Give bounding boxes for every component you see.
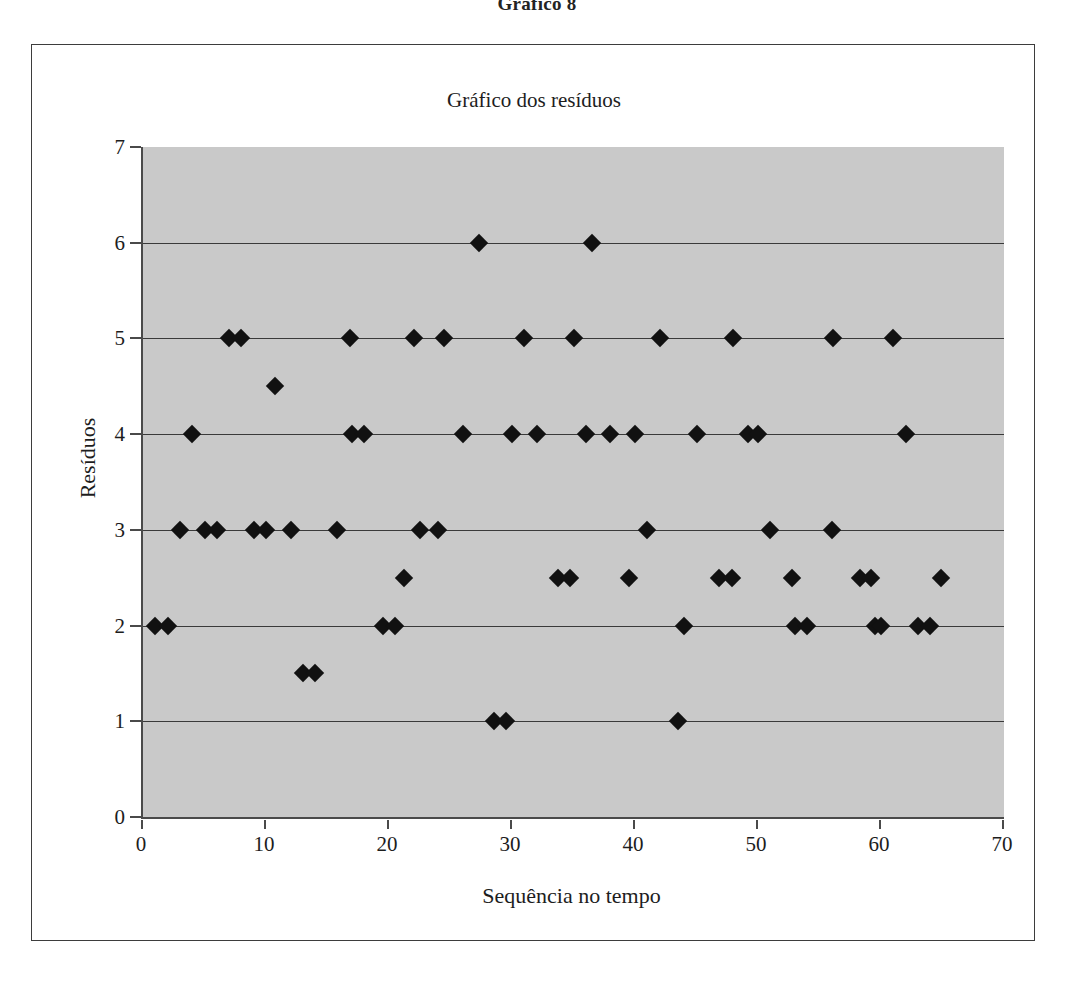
gridline-y-6 xyxy=(143,243,1004,244)
y-tick-label-6: 6 xyxy=(81,232,125,253)
scatter-point xyxy=(355,425,373,443)
gridline-y-4 xyxy=(143,434,1004,435)
scatter-point xyxy=(626,425,644,443)
scatter-point xyxy=(281,521,299,539)
x-tick-label-40: 40 xyxy=(603,834,663,855)
x-tick-mark-20 xyxy=(387,820,389,829)
y-tick-label-2: 2 xyxy=(81,615,125,636)
x-tick-label-60: 60 xyxy=(849,834,909,855)
x-tick-mark-10 xyxy=(264,820,266,829)
scatter-point xyxy=(669,712,687,730)
x-tick-mark-50 xyxy=(756,820,758,829)
scatter-point xyxy=(783,569,801,587)
scatter-point xyxy=(429,521,447,539)
scatter-point xyxy=(527,425,545,443)
x-tick-mark-0 xyxy=(141,820,143,829)
x-tick-label-30: 30 xyxy=(480,834,540,855)
chart-title: Gráfico dos resíduos xyxy=(32,88,1036,113)
scatter-point xyxy=(823,521,841,539)
x-axis-title: Sequência no tempo xyxy=(141,883,1002,909)
y-tick-mark-5 xyxy=(130,337,141,339)
x-tick-mark-60 xyxy=(879,820,881,829)
x-tick-mark-40 xyxy=(633,820,635,829)
scatter-point xyxy=(723,569,741,587)
scatter-point xyxy=(798,616,816,634)
x-tick-label-70: 70 xyxy=(972,834,1032,855)
scatter-point xyxy=(340,329,358,347)
x-tick-mark-30 xyxy=(510,820,512,829)
scatter-point xyxy=(454,425,472,443)
x-tick-label-50: 50 xyxy=(726,834,786,855)
x-tick-label-20: 20 xyxy=(357,834,417,855)
scatter-point xyxy=(724,329,742,347)
x-tick-label-0: 0 xyxy=(111,834,171,855)
y-tick-mark-6 xyxy=(130,242,141,244)
scatter-point xyxy=(183,425,201,443)
scatter-point xyxy=(932,569,950,587)
scatter-point xyxy=(208,521,226,539)
scatter-point xyxy=(577,425,595,443)
scatter-point xyxy=(561,569,579,587)
scatter-point xyxy=(601,425,619,443)
scatter-point xyxy=(306,664,324,682)
scatter-point xyxy=(687,425,705,443)
scatter-point xyxy=(395,569,413,587)
scatter-point xyxy=(862,569,880,587)
scatter-point xyxy=(257,521,275,539)
figure-caption: Gráfico 8 xyxy=(0,0,1074,15)
y-tick-label-0: 0 xyxy=(81,807,125,828)
x-tick-label-10: 10 xyxy=(234,834,294,855)
gridline-y-1 xyxy=(143,721,1004,722)
scatter-point xyxy=(265,377,283,395)
y-tick-mark-1 xyxy=(130,720,141,722)
scatter-point xyxy=(675,616,693,634)
scatter-point xyxy=(638,521,656,539)
y-tick-mark-3 xyxy=(130,529,141,531)
scatter-point xyxy=(620,569,638,587)
scatter-point xyxy=(650,329,668,347)
y-axis-title: Resíduos xyxy=(75,358,101,558)
scatter-point xyxy=(328,521,346,539)
y-tick-mark-2 xyxy=(130,625,141,627)
scatter-point xyxy=(404,329,422,347)
y-tick-mark-7 xyxy=(130,146,141,148)
scatter-point xyxy=(884,329,902,347)
scatter-point xyxy=(158,616,176,634)
scatter-point xyxy=(411,521,429,539)
figure-frame: Gráfico dos resíduos 01234567 0102030405… xyxy=(31,44,1035,941)
plot-area xyxy=(141,147,1004,819)
scatter-point xyxy=(761,521,779,539)
scatter-point xyxy=(515,329,533,347)
scatter-point xyxy=(470,234,488,252)
scatter-point xyxy=(497,712,515,730)
scatter-point xyxy=(386,616,404,634)
y-tick-label-1: 1 xyxy=(81,711,125,732)
scatter-point xyxy=(564,329,582,347)
scatter-point xyxy=(171,521,189,539)
x-tick-mark-70 xyxy=(1002,820,1004,829)
y-tick-mark-0 xyxy=(130,816,141,818)
scatter-point xyxy=(896,425,914,443)
y-tick-mark-4 xyxy=(130,433,141,435)
scatter-point xyxy=(232,329,250,347)
y-tick-label-7: 7 xyxy=(81,137,125,158)
y-tick-label-5: 5 xyxy=(81,328,125,349)
scatter-point xyxy=(435,329,453,347)
scatter-point xyxy=(824,329,842,347)
scatter-point xyxy=(583,234,601,252)
scatter-point xyxy=(921,616,939,634)
scatter-point xyxy=(503,425,521,443)
